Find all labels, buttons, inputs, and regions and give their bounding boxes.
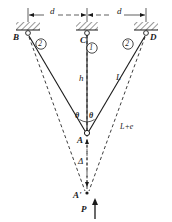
support-B-hatching — [16, 22, 40, 30]
dim-arrow-right — [140, 13, 145, 17]
theta-left-arc — [80, 120, 88, 123]
length-label-L-plus-e: L+e — [120, 123, 133, 131]
joint-A — [84, 130, 89, 135]
deflection-label-delta: Δ — [78, 157, 83, 166]
dimension-label-left: d — [50, 7, 55, 16]
load-P-arrowhead — [92, 198, 98, 205]
truss-deflection-diagram — [0, 0, 172, 222]
support-D-pin — [144, 31, 149, 36]
dim-arrow-left — [29, 13, 34, 17]
dim-arrow-center-right — [88, 13, 93, 17]
support-label-C: C — [80, 36, 86, 45]
angle-label-theta-right: θ — [89, 112, 93, 120]
support-label-B: B — [13, 33, 19, 42]
delta-arrow-bottom — [85, 182, 89, 187]
support-label-D: D — [150, 33, 157, 42]
load-P-arrow — [92, 198, 98, 219]
load-label-P: P — [81, 205, 87, 214]
member-badge-label-2-right: 2 — [125, 40, 129, 48]
dimension-line-group — [28, 8, 146, 22]
delta-dimension — [85, 139, 89, 187]
delta-arrow-top — [85, 139, 89, 144]
support-D-hatching — [134, 22, 158, 30]
member-badge-label-2-left: 2 — [38, 40, 42, 48]
member-2-DA — [89, 36, 145, 131]
length-label-L: L — [116, 73, 121, 82]
support-B-pin — [26, 31, 31, 36]
dim-arrow-center-left — [81, 13, 86, 17]
member-badge-label-1: 1 — [89, 44, 93, 52]
support-C-hatching — [76, 22, 98, 30]
support-C — [76, 22, 98, 35]
deformed-2-DA — [89, 37, 145, 191]
height-label-h: h — [79, 74, 84, 83]
angle-label-theta-left: θ — [75, 112, 79, 120]
apex-moved-label-A-prime: A' — [73, 191, 82, 200]
apex-label-A: A — [77, 136, 83, 145]
joint-A-prime — [85, 191, 88, 194]
dimension-label-right: d — [117, 7, 122, 16]
support-B — [16, 22, 40, 35]
